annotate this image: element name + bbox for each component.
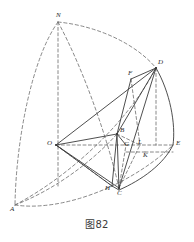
edge-o-d — [56, 68, 156, 145]
vertex-dot-b — [116, 133, 118, 135]
point-label-E: E — [176, 140, 180, 147]
point-label-F: F — [128, 70, 132, 77]
arc-n-a — [15, 22, 58, 205]
geometry-figure: N D F B G L K E O H C A 图82 — [0, 0, 194, 242]
geometry-diagram — [0, 0, 194, 242]
point-label-A: A — [10, 206, 14, 213]
vertex-dot-d — [155, 67, 157, 69]
edge-o-h — [56, 145, 112, 186]
edge-b-h — [112, 134, 117, 186]
point-label-B: B — [120, 127, 124, 134]
edge-c-d — [119, 68, 156, 188]
arc-n-d — [58, 22, 156, 68]
point-label-L: L — [138, 139, 142, 146]
arc-n-c — [58, 22, 119, 188]
vertex-dot-o — [55, 144, 57, 146]
point-label-C: C — [117, 190, 122, 197]
figure-caption: 图82 — [0, 216, 194, 231]
point-label-K: K — [143, 152, 148, 159]
point-label-G: G — [124, 141, 129, 148]
arc-a-e — [15, 145, 173, 206]
point-label-D: D — [158, 59, 163, 66]
point-label-N: N — [56, 12, 61, 19]
edge-b-d — [117, 68, 156, 134]
point-label-H: H — [105, 185, 110, 192]
point-label-O: O — [47, 140, 52, 147]
arc-d-e — [156, 68, 174, 145]
